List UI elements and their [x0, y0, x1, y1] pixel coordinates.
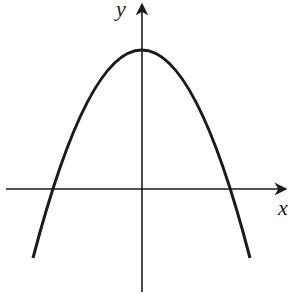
parabola-diagram: y x — [0, 0, 304, 294]
x-axis-label: x — [277, 195, 288, 220]
y-axis-label: y — [114, 0, 126, 21]
